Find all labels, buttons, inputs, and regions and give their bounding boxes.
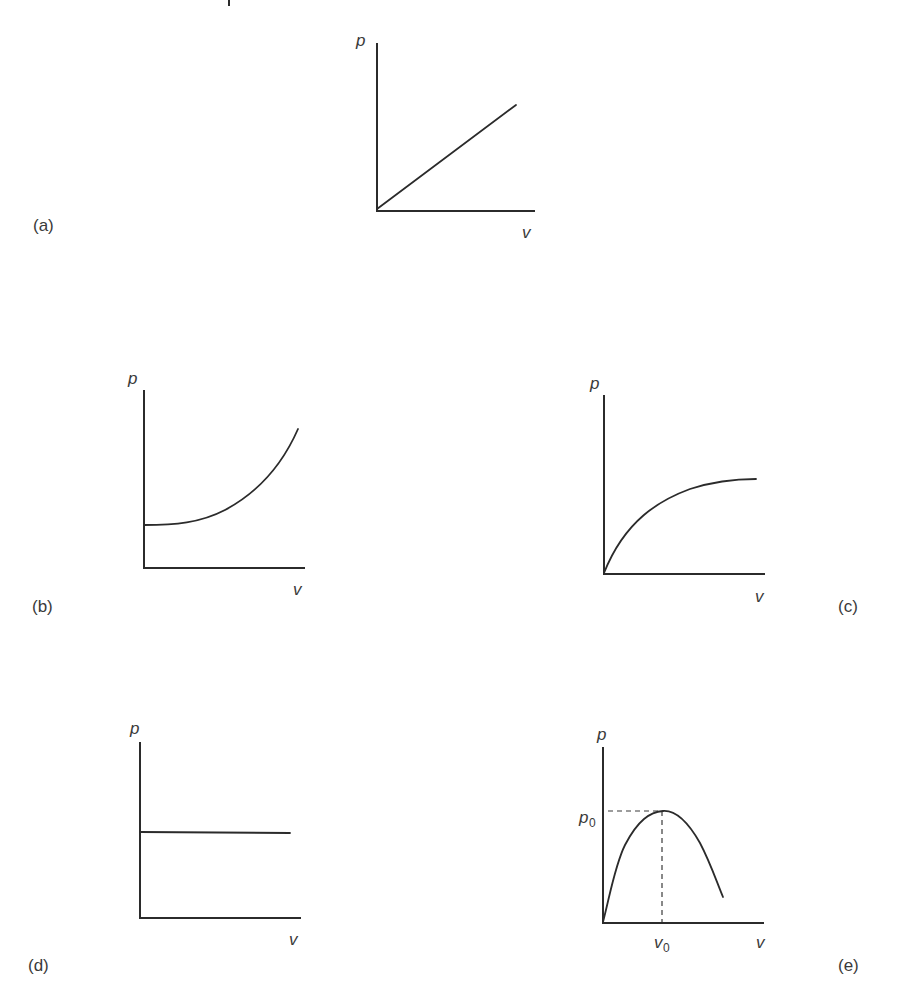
panel-b-x-label: v <box>293 580 303 599</box>
panel-e-x-label: v <box>756 933 766 952</box>
panel-c-x-label: v <box>755 587 765 606</box>
panel-d-curve <box>140 832 290 833</box>
panel-e-curve <box>603 811 723 922</box>
svg-text:0: 0 <box>589 816 596 830</box>
panel-b-label: (b) <box>32 597 53 616</box>
panel-b: p v (b) <box>32 369 304 616</box>
panel-a-x-label: v <box>522 223 532 242</box>
panel-a-curve <box>377 105 516 209</box>
panel-c-y-label: p <box>589 374 599 393</box>
panel-e-label: (e) <box>838 956 859 975</box>
panel-e-v0-label: v 0 <box>654 933 670 955</box>
panel-b-curve <box>144 429 298 525</box>
panel-e: p v p 0 v 0 (e) <box>578 725 859 975</box>
figure-canvas: p v (a) p v (b) p v (c) p v (d) p v <box>0 0 901 1006</box>
panel-a: p v (a) <box>33 31 534 242</box>
panel-d-y-label: p <box>129 719 139 738</box>
panel-c-label: (c) <box>838 597 858 616</box>
svg-text:p: p <box>578 808 588 827</box>
svg-text:0: 0 <box>663 941 670 955</box>
panel-a-label: (a) <box>33 216 54 235</box>
panel-d-x-label: v <box>289 930 299 949</box>
panel-c-curve <box>604 479 756 573</box>
panel-c: p v (c) <box>589 374 858 616</box>
panel-d: p v (d) <box>28 719 300 975</box>
panel-d-label: (d) <box>28 956 49 975</box>
panel-a-y-label: p <box>355 31 365 50</box>
panel-b-y-label: p <box>127 369 137 388</box>
panel-e-y-label: p <box>596 725 606 744</box>
panel-e-p0-label: p 0 <box>578 808 596 830</box>
